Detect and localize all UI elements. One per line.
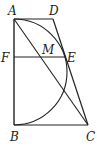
label-F: F bbox=[0, 51, 10, 65]
label-B: B bbox=[9, 130, 19, 144]
label-A: A bbox=[7, 4, 17, 18]
geometry-diagram: A D F M E B C bbox=[0, 0, 97, 155]
segment-DC bbox=[53, 19, 88, 125]
label-E: E bbox=[66, 51, 76, 65]
semicircle-arc-AB bbox=[14, 19, 67, 125]
label-C: C bbox=[86, 130, 95, 144]
label-M: M bbox=[41, 43, 55, 57]
label-D: D bbox=[48, 4, 59, 18]
segment-AC bbox=[14, 19, 88, 125]
